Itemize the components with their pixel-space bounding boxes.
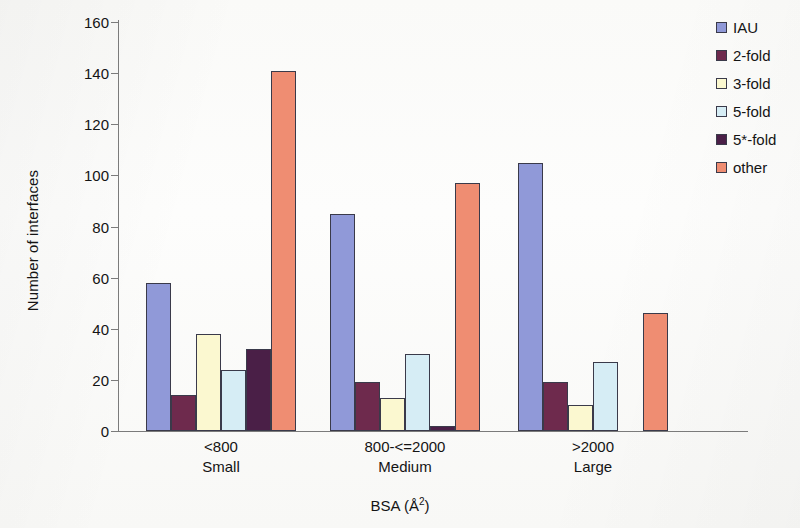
y-axis-title: Number of interfaces [24, 131, 41, 351]
x-axis-title-base: BSA (Å [371, 497, 419, 514]
legend-item[interactable]: 2-fold [716, 41, 800, 69]
x-axis-category-size: Small [131, 457, 311, 477]
legend-color-swatch [716, 106, 727, 117]
plot-area: 020406080100120140160 [118, 22, 748, 431]
y-axis-tick-mark [111, 22, 118, 23]
x-axis-category-label: 800-<=2000Medium [315, 437, 495, 477]
y-axis-tick-mark [111, 124, 118, 125]
x-axis-title: BSA (Å2) [0, 496, 800, 514]
bar[interactable] [380, 398, 405, 431]
bar[interactable] [430, 426, 455, 431]
bar-chart: Number of interfaces 0204060801001201401… [0, 0, 800, 528]
legend-item[interactable]: IAU [716, 13, 800, 41]
legend-color-swatch [716, 50, 727, 61]
bar-group [146, 22, 296, 431]
y-axis-tick-label: 140 [84, 65, 109, 82]
chart-legend: IAU2-fold3-fold5-fold5*-foldother [716, 13, 800, 181]
legend-item[interactable]: 5-fold [716, 97, 800, 125]
legend-label: 2-fold [733, 47, 771, 64]
bar[interactable] [246, 349, 271, 431]
x-axis-category-range: 800-<=2000 [315, 437, 495, 457]
bar[interactable] [221, 370, 246, 431]
y-axis-tick-mark [111, 278, 118, 279]
bar[interactable] [405, 354, 430, 431]
legend-label: 3-fold [733, 75, 771, 92]
bar[interactable] [271, 71, 296, 431]
bar[interactable] [568, 405, 593, 431]
bar[interactable] [543, 382, 568, 431]
bar[interactable] [355, 382, 380, 431]
y-axis-tick-label: 0 [101, 423, 109, 440]
legend-item[interactable]: other [716, 153, 800, 181]
legend-label: 5*-fold [733, 131, 776, 148]
x-axis-category-range: >2000 [503, 437, 683, 457]
y-axis-tick-mark [111, 329, 118, 330]
y-axis-tick-label: 160 [84, 14, 109, 31]
legend-color-swatch [716, 78, 727, 89]
bar[interactable] [455, 183, 480, 431]
y-axis-tick-label: 40 [92, 320, 109, 337]
y-axis-tick-mark [111, 227, 118, 228]
x-axis-category-label: <800Small [131, 437, 311, 477]
y-axis-tick-mark [111, 73, 118, 74]
x-axis-category-size: Large [503, 457, 683, 477]
y-axis-tick-label: 20 [92, 371, 109, 388]
bar[interactable] [518, 163, 543, 431]
x-axis-line [118, 431, 748, 432]
bar[interactable] [330, 214, 355, 431]
y-axis-tick-mark [111, 431, 118, 432]
legend-label: IAU [733, 19, 758, 36]
bar-group [518, 22, 668, 431]
bar-group [330, 22, 480, 431]
y-axis-tick-label: 80 [92, 218, 109, 235]
legend-label: other [733, 159, 767, 176]
x-axis-category-size: Medium [315, 457, 495, 477]
x-axis-title-close: ) [424, 497, 429, 514]
bar[interactable] [146, 283, 171, 431]
bar[interactable] [643, 313, 668, 431]
y-axis-tick-label: 120 [84, 116, 109, 133]
bar[interactable] [593, 362, 618, 431]
x-axis-category-range: <800 [131, 437, 311, 457]
legend-color-swatch [716, 134, 727, 145]
legend-color-swatch [716, 162, 727, 173]
legend-label: 5-fold [733, 103, 771, 120]
bar[interactable] [171, 395, 196, 431]
y-axis-tick-label: 100 [84, 167, 109, 184]
y-axis-tick-mark [111, 175, 118, 176]
legend-item[interactable]: 3-fold [716, 69, 800, 97]
x-axis-category-label: >2000Large [503, 437, 683, 477]
y-axis-tick-mark [111, 380, 118, 381]
bar[interactable] [196, 334, 221, 431]
legend-item[interactable]: 5*-fold [716, 125, 800, 153]
legend-color-swatch [716, 22, 727, 33]
y-axis-tick-label: 60 [92, 269, 109, 286]
